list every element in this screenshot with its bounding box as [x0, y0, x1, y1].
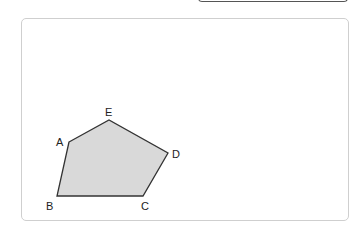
- vertex-label-e: E: [105, 106, 112, 118]
- pentagon-diagram: A E D C B: [0, 0, 363, 234]
- vertex-label-d: D: [172, 148, 180, 160]
- vertex-label-c: C: [141, 200, 149, 212]
- vertex-label-b: B: [46, 200, 53, 212]
- pentagon-shape: [57, 120, 168, 196]
- vertex-label-a: A: [56, 136, 64, 148]
